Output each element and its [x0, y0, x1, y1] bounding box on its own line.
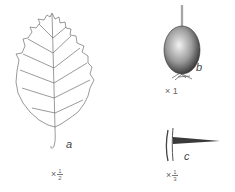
thorn-illustration [165, 128, 225, 163]
thorn-scale: ×13 [166, 169, 178, 182]
leaf-scale: ×12 [51, 168, 63, 181]
leaf-label: a [66, 138, 72, 150]
leaf-illustration [8, 8, 98, 153]
fruit-illustration [160, 5, 205, 85]
thorn-label: c [184, 150, 190, 162]
fruit-label: b [196, 61, 202, 73]
fruit-scale: × 1 [165, 86, 178, 96]
